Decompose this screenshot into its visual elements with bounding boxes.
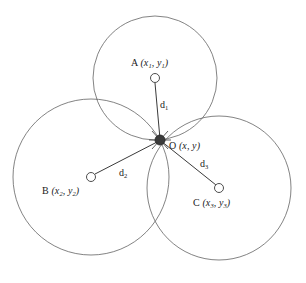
label-node-o: O (x, y) <box>169 141 200 151</box>
label-node-c-id: C <box>193 197 200 208</box>
label-distance-d1: d1 <box>160 100 168 110</box>
label-node-b: B (x2, y2) <box>42 186 79 196</box>
label-node-o-id: O <box>169 140 176 151</box>
label-node-a-id: A <box>131 57 138 68</box>
node-marker-a <box>151 74 160 83</box>
trilateration-diagram <box>0 0 306 283</box>
label-node-o-coords: (x, y) <box>179 140 200 151</box>
label-c-x-sub: 3 <box>210 202 213 209</box>
label-distance-d2: d2 <box>119 168 127 178</box>
node-marker-b <box>87 173 96 182</box>
label-node-a: A (x1, y1) <box>131 58 168 68</box>
label-d2-sub: 2 <box>124 172 127 179</box>
node-marker-c <box>215 184 224 193</box>
label-b-y-sub: 2 <box>72 190 75 197</box>
label-d3-sub: 3 <box>205 163 208 170</box>
label-a-x-sub: 1 <box>148 62 151 69</box>
label-d1-sub: 1 <box>165 104 168 111</box>
label-node-c: C (x3, y3) <box>193 198 230 208</box>
label-c-y-sub: 3 <box>223 202 226 209</box>
label-distance-d3: d3 <box>200 159 208 169</box>
label-node-b-id: B <box>42 185 49 196</box>
label-b-x-sub: 2 <box>59 190 62 197</box>
label-a-y-sub: 1 <box>161 62 164 69</box>
